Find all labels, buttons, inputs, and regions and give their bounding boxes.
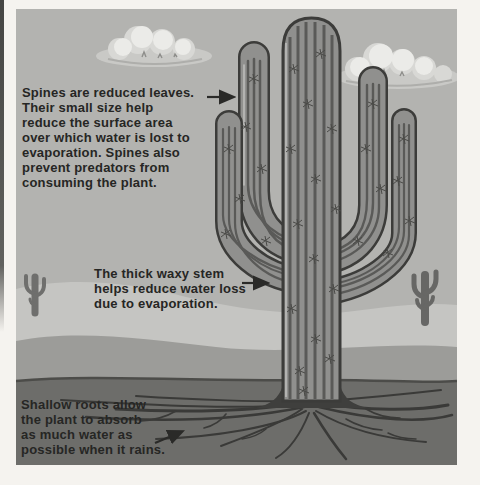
page: Spines are reduced leaves. Their small s… (0, 0, 480, 485)
cactus-illustration: Spines are reduced leaves. Their small s… (16, 9, 457, 465)
page-scan-edge (0, 0, 4, 332)
roots-annotation: Shallow roots allow the plant to absorb … (21, 397, 206, 457)
stem-annotation: The thick waxy stem helps reduce water l… (94, 266, 274, 311)
spines-annotation: Spines are reduced leaves. Their small s… (22, 85, 232, 190)
